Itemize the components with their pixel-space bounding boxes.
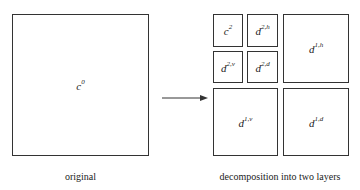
block-d1-v: d1,v xyxy=(213,88,278,156)
original-label: c0 xyxy=(76,79,84,92)
original-caption: original xyxy=(12,171,149,182)
decomposition-caption: decomposition into two layers xyxy=(205,171,355,182)
block-d2-h: d2,h xyxy=(247,14,278,47)
block-d1-h: d1,h xyxy=(283,14,349,83)
arrow-right-icon xyxy=(162,93,208,103)
block-c2: c2 xyxy=(213,14,243,47)
block-d2-d: d2,d xyxy=(247,51,278,83)
block-d1-d: d1,d xyxy=(283,88,349,156)
original-image-box: c0 xyxy=(12,14,149,156)
block-d2-v: d2,v xyxy=(213,51,243,83)
